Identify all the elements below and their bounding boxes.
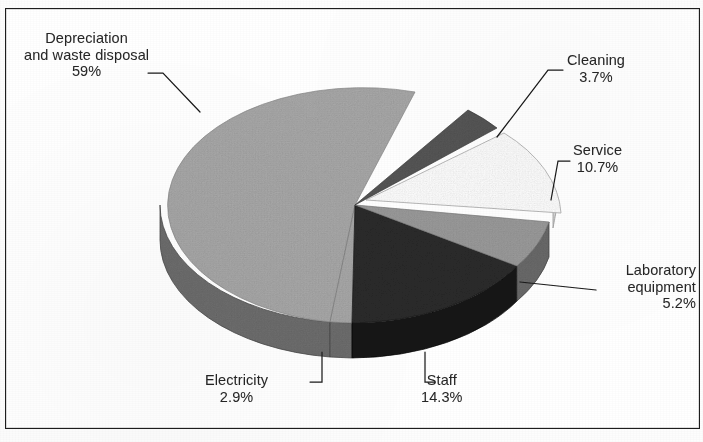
pie-label-electricity: Electricity 2.9% [205,372,268,405]
pie-label-staff-line1: Staff [421,372,463,389]
pie-label-depreciation-line1: Depreciation [24,30,149,47]
pie-label-laboratory-equipment: Laboratory equipment 5.2% [626,262,696,312]
pie-label-depreciation-line2: and waste disposal [24,47,149,64]
pie-label-depreciation: Depreciation and waste disposal 59% [24,30,149,80]
pie-label-cleaning: Cleaning 3.7% [567,52,625,85]
leader-line-electricity [310,352,322,382]
pie-label-service: Service 10.7% [573,142,622,175]
pie-label-laboratory-line1: Laboratory [626,262,696,279]
pie-label-staff-value: 14.3% [421,389,463,406]
pie-label-laboratory-line2: equipment [626,279,696,296]
pie-label-depreciation-value: 59% [24,63,149,80]
pie-label-service-line1: Service [573,142,622,159]
pie-label-staff: Staff 14.3% [421,372,463,405]
slice-side-electricity [330,322,352,358]
pie-label-service-value: 10.7% [573,159,622,176]
leader-line-depreciation [148,73,200,112]
leader-line-cleaning [497,70,563,137]
pie-label-cleaning-line1: Cleaning [567,52,625,69]
pie-label-cleaning-value: 3.7% [567,69,625,86]
pie-label-laboratory-value: 5.2% [626,295,696,312]
pie-label-electricity-value: 2.9% [205,389,268,406]
pie-label-electricity-line1: Electricity [205,372,268,389]
